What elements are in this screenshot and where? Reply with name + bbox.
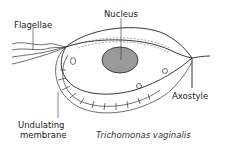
diagram-caption: Trichomonas vaginalis bbox=[96, 130, 191, 140]
nucleus-shape bbox=[102, 47, 138, 73]
label-undulating: Undulating bbox=[18, 121, 64, 130]
label-nucleus: Nucleus bbox=[104, 10, 138, 19]
label-axostyle: Axostyle bbox=[172, 92, 208, 101]
label-membrane: membrane bbox=[20, 131, 67, 140]
flagella bbox=[12, 43, 66, 64]
label-flagellae: Flagellae bbox=[14, 21, 52, 30]
